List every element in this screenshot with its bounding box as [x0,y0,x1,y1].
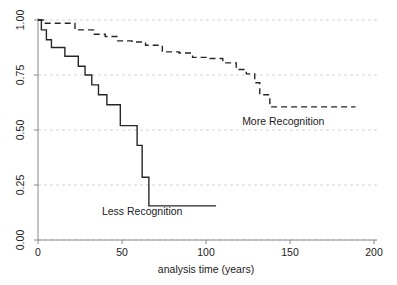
y-tick-label-0.25: 0.25 [14,175,26,196]
kaplan-meier-chart: 0.000.250.500.751.00 050100150200 Less R… [0,0,397,285]
series-group [38,20,356,206]
chart-canvas: 0.000.250.500.751.00 050100150200 Less R… [0,0,397,285]
x-axis-tick-labels: 050100150200 [35,246,383,258]
x-tick-label-0: 0 [35,246,41,258]
y-tick-label-0.75: 0.75 [14,65,26,86]
y-tick-label-0.00: 0.00 [14,230,26,251]
series-line-more-recognition [38,20,356,107]
series-label-less-recognition: Less Recognition [102,205,183,217]
series-line-less-recognition [38,20,216,206]
y-tick-label-0.50: 0.50 [14,120,26,141]
x-tick-label-150: 150 [281,246,299,258]
series-label-more-recognition: More Recognition [242,115,324,127]
y-tick-label-1.00: 1.00 [14,10,26,31]
x-tick-label-50: 50 [116,246,128,258]
x-axis-title: analysis time (years) [158,263,254,275]
x-axis-ticks-group [38,240,374,244]
x-tick-label-100: 100 [197,246,215,258]
x-tick-label-200: 200 [365,246,383,258]
y-axis-tick-labels: 0.000.250.500.751.00 [14,10,26,251]
gridlines-group [38,20,377,240]
y-axis-ticks-group [34,20,38,240]
